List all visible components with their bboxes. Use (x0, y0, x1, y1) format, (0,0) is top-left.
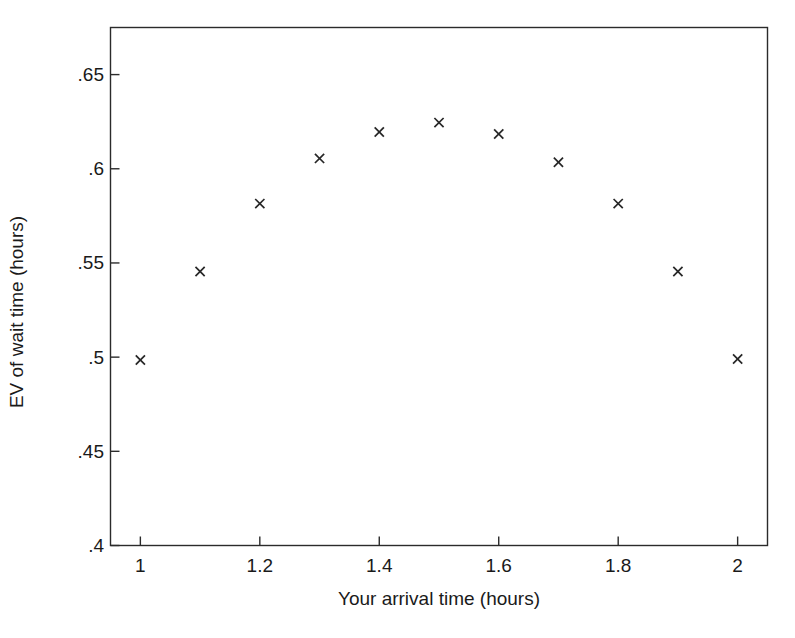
data-point-marker (136, 355, 145, 364)
axis-frame (111, 28, 768, 546)
data-point-group (136, 118, 742, 365)
plot-area (0, 0, 795, 638)
data-point-marker (255, 199, 264, 208)
axis-tick-group (111, 75, 738, 546)
data-point-marker (315, 154, 324, 163)
data-point-marker (195, 267, 204, 276)
data-point-marker (554, 158, 563, 167)
data-point-marker (733, 354, 742, 363)
data-point-marker (673, 267, 682, 276)
data-point-marker (434, 118, 443, 127)
data-point-marker (494, 129, 503, 138)
chart-figure: EV of wait time (hours) Your arrival tim… (0, 0, 795, 638)
data-point-marker (375, 127, 384, 136)
data-point-marker (614, 199, 623, 208)
